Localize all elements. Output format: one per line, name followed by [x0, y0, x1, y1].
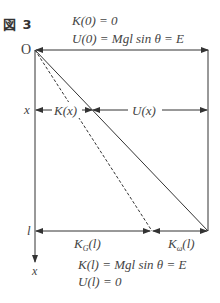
potential-at-l-label: U(l) = 0	[78, 275, 121, 288]
position-x-label: x	[24, 103, 30, 116]
dashed-diagonal-line	[35, 50, 152, 231]
solid-diagonal-line	[35, 50, 208, 231]
rotational-kinetic-label: Kω(l)	[168, 237, 195, 253]
potential-at-zero-label: U(0) = Mgl sin θ = E	[72, 32, 184, 45]
kinetic-at-l-label: K(l) = Mgl sin θ = E	[78, 258, 186, 271]
origin-label: O	[21, 43, 31, 57]
kinetic-x-label: K(x)	[54, 104, 77, 117]
potential-x-label: U(x)	[132, 104, 156, 117]
length-l-label: l	[27, 224, 31, 237]
translational-kinetic-label: KG(l)	[74, 237, 101, 253]
kinetic-at-zero-label: K(0) = 0	[72, 14, 118, 27]
x-axis-label: x	[32, 265, 37, 277]
